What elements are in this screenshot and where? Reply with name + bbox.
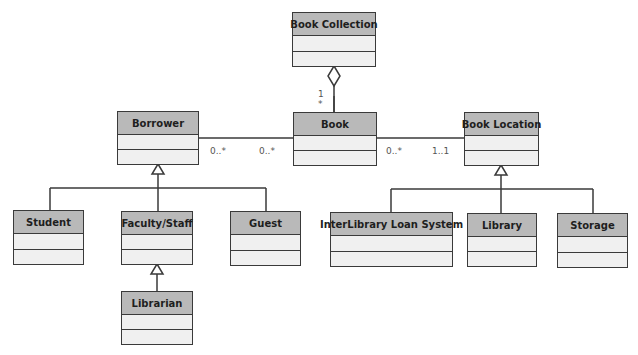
class-name: Book <box>294 113 376 136</box>
class-borrower[interactable]: Borrower <box>117 111 199 165</box>
attributes-compartment <box>558 237 627 253</box>
class-name: Student <box>14 211 83 234</box>
class-name: InterLibrary Loan System <box>331 213 452 236</box>
class-student[interactable]: Student <box>13 210 84 265</box>
class-name: Guest <box>231 212 300 235</box>
operations-compartment <box>122 250 192 264</box>
operations-compartment <box>231 251 300 266</box>
class-book[interactable]: Book <box>293 112 377 166</box>
class-book-collection[interactable]: Book Collection <box>292 12 376 67</box>
attributes-compartment <box>465 136 538 151</box>
class-name: Book Location <box>465 113 538 136</box>
attributes-compartment <box>231 235 300 251</box>
class-name: Library <box>468 214 536 237</box>
generalization-arrow-icon <box>151 264 163 274</box>
multiplicity-one: 1 <box>318 89 324 99</box>
multiplicity-book-location: 0..* <box>386 146 402 156</box>
class-faculty-staff[interactable]: Faculty/Staff <box>121 211 193 265</box>
operations-compartment <box>294 151 376 165</box>
attributes-compartment <box>468 237 536 252</box>
multiplicity-location: 1..1 <box>432 146 449 156</box>
attributes-compartment <box>293 36 375 52</box>
operations-compartment <box>122 330 192 344</box>
class-interlibrary-loan-system[interactable]: InterLibrary Loan System <box>330 212 453 267</box>
attributes-compartment <box>118 135 198 150</box>
operations-compartment <box>14 250 83 265</box>
multiplicity-borrower: 0..* <box>210 146 226 156</box>
aggregation-diamond-icon <box>328 66 340 86</box>
generalization-arrow-icon <box>495 165 507 175</box>
class-name: Faculty/Staff <box>122 212 192 235</box>
operations-compartment <box>293 52 375 67</box>
class-name: Borrower <box>118 112 198 135</box>
attributes-compartment <box>294 136 376 151</box>
attributes-compartment <box>122 315 192 330</box>
multiplicity-book-borrower: 0..* <box>259 146 275 156</box>
class-library[interactable]: Library <box>467 213 537 267</box>
operations-compartment <box>558 253 627 268</box>
class-storage[interactable]: Storage <box>557 213 628 268</box>
class-name: Storage <box>558 214 627 237</box>
attributes-compartment <box>331 236 452 252</box>
class-librarian[interactable]: Librarian <box>121 291 193 345</box>
generalization-arrow-icon <box>152 164 164 174</box>
operations-compartment <box>465 151 538 165</box>
operations-compartment <box>118 150 198 164</box>
attributes-compartment <box>122 235 192 250</box>
class-name: Librarian <box>122 292 192 315</box>
class-guest[interactable]: Guest <box>230 211 301 266</box>
multiplicity-many: * <box>318 99 323 109</box>
operations-compartment <box>468 252 536 266</box>
class-book-location[interactable]: Book Location <box>464 112 539 166</box>
attributes-compartment <box>14 234 83 250</box>
operations-compartment <box>331 252 452 267</box>
class-name: Book Collection <box>293 13 375 36</box>
